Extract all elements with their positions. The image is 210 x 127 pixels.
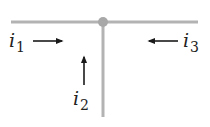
current-symbol: i [9,29,15,51]
current-i2-label: i2 [73,89,89,112]
current-symbol: i [183,29,189,51]
current-subscript: 3 [190,39,199,55]
circuit-drawing [0,0,210,127]
junction-diagram: i1 i2 i3 [0,0,210,127]
junction-node [98,17,108,27]
current-symbol: i [73,87,79,109]
current-subscript: 2 [80,97,89,113]
current-subscript: 1 [16,39,25,55]
current-i1-label: i1 [9,31,25,54]
current-i3-label: i3 [183,31,199,54]
